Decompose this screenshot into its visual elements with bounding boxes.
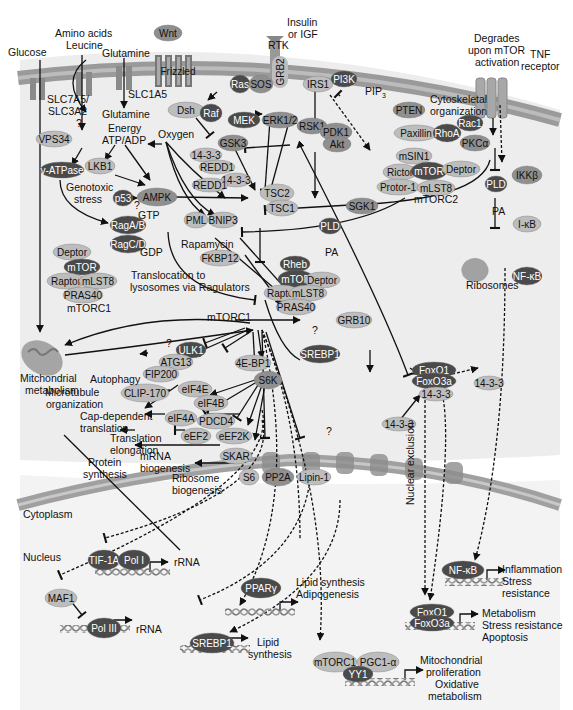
svg-text:PML: PML [186,215,207,226]
question-label: ? [312,324,318,336]
svg-text:14-3-3: 14-3-3 [422,389,451,400]
svg-text:mLST8: mLST8 [82,276,115,287]
svg-text:S6: S6 [243,472,256,483]
svg-text:Raf: Raf [203,108,219,119]
svg-text:GSK3: GSK3 [220,138,247,149]
tnf-label-2: receptor [521,60,560,72]
energy-label: Energy [108,122,142,134]
micro-label-1: Microtubule [45,386,99,398]
s6-node: S6 [239,469,259,485]
lkb1-node: LKB1 [85,158,115,174]
clip170-node: CLIP-170 [121,384,169,402]
cap-label-1: Cap-dependent [80,410,152,422]
mek-node: MEK [228,112,260,128]
lipid-label-1: Lipid [257,636,279,648]
deptor-node: Deptor [442,161,480,177]
svg-text:PRAS40: PRAS40 [64,290,103,301]
mlst8-node: mLST8 [79,273,117,289]
svg-text:Ras: Ras [231,79,249,90]
svg-text:NF-κB: NF-κB [449,565,478,576]
pras40-node: PRAS40 [276,299,316,315]
skar-node: SKAR [220,448,252,464]
svg-text:mLST8: mLST8 [292,288,325,299]
foxo3a-node: FoxO3a [410,615,454,631]
svg-text:Akt: Akt [330,139,345,150]
mtorc1-active-label: mTORC1 [207,311,251,323]
svg-text:IKKβ: IKKβ [516,170,538,181]
srebp1-node: SREBP1 [190,633,234,653]
nucleus-label: Nucleus [23,551,61,563]
autophagy-label: Autophagy [90,373,141,385]
tsc2-node: TSC2 [260,184,294,202]
svg-text:eIF4A: eIF4A [168,413,195,424]
svg-text:Pol III: Pol III [91,623,117,634]
sos-node: SOS [249,75,273,93]
svg-text:PKCα: PKCα [462,138,489,149]
svg-text:Lipin-1: Lipin-1 [299,472,329,483]
gtp-label: GTP [138,209,160,221]
pi3k-node: PI3K [331,71,357,87]
svg-text:LKB1: LKB1 [88,161,113,172]
stress-resistance-label: Stress resistance [482,619,563,631]
pol1-node: Pol I [118,550,150,570]
svg-text:eEF2: eEF2 [184,431,208,442]
mrna-label-1: mRNA [140,450,171,462]
svg-text:SREBP1: SREBP1 [192,638,232,649]
mito-prolif-label-3: Oxidative [435,678,479,690]
svg-text:YY1: YY1 [349,669,368,680]
genotoxic-label-2: stress [74,193,102,205]
svg-text:mTORC1: mTORC1 [314,657,356,668]
svg-text:SGK1: SGK1 [349,201,376,212]
svg-text:mLST8: mLST8 [420,183,453,194]
vatpase-node: v-ATPase [40,162,84,178]
mtor-node: mTOR [64,259,100,275]
ras-node: Ras [230,75,250,93]
glutamine-in-label: Glutamine [102,108,150,120]
raf-node: Raf [200,104,222,122]
pp2a-node: PP2A [262,468,294,486]
rrna-label: rRNA [174,556,200,568]
svg-text:PRAS40: PRAS40 [277,302,316,313]
adipogenesis-label: Adipogenesis [296,588,359,600]
maf1-node: MAF1 [45,589,77,607]
svg-text:14-3-3: 14-3-3 [192,150,221,161]
svg-text:ERK1/2: ERK1/2 [263,115,298,126]
protor-node: Protor-1 [377,179,419,195]
rheb-node: Rheb [280,256,310,272]
svg-text:mTOR: mTOR [414,166,443,177]
frizzled-label: Frizzled [160,66,195,77]
question-label: ? [166,337,172,349]
redd1-node: REDD1 [199,160,235,174]
svg-text:SOS: SOS [250,79,271,90]
pld-node: PLD [485,176,507,192]
lipid-label-2: synthesis [248,648,292,660]
pkca-node: PKCα [460,135,490,151]
eif4b-node: eIF4B [194,395,228,411]
eef2k-node: eEF2K [216,428,252,444]
deptor-node: Deptor [53,244,91,260]
svg-text:FIP200: FIP200 [145,369,178,380]
svg-text:Wnt: Wnt [159,28,177,39]
svg-text:RagA/B: RagA/B [111,220,146,231]
insulin-label: Insulin [287,16,318,28]
tif1a-node: TIF-1A [88,550,120,570]
rapamycin-label: Rapamycin [181,238,234,250]
svg-text:SKAR: SKAR [222,451,249,462]
svg-text:GRB2: GRB2 [275,58,286,86]
translation-label-1: Translation [110,432,162,444]
svg-text:Raptor: Raptor [51,276,82,287]
mito-prolif-label-2: proliferation [426,666,481,678]
inflammation-label: Inflammation [502,563,562,575]
rhoa-node: RhoA [433,124,461,142]
resistance-label: resistance [502,587,550,599]
apoptosis-label: Apoptosis [482,631,528,643]
svg-text:MEK: MEK [233,115,255,126]
translocation-label-1: Translocation to [131,269,205,281]
gsk3-node: GSK3 [218,135,248,151]
translocation-label-2: lysosomes via Ragulators [130,281,250,293]
eif4e-node: eIF4E [178,381,212,397]
eif4a-node: eIF4A [165,410,197,426]
svg-text:p53: p53 [115,193,132,204]
glutamine-out-label: Glutamine [102,47,150,59]
svg-text:IRS1: IRS1 [307,79,330,90]
